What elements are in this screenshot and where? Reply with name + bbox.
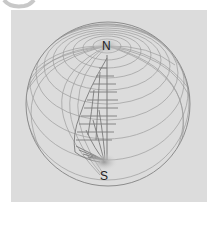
north-pole-label: N [102,40,111,52]
south-pole-label: S [100,170,108,182]
